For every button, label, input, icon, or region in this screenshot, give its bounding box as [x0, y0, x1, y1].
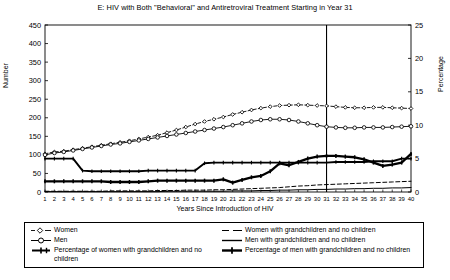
x-tick-label: 27 [286, 196, 293, 202]
series-marker-0 [353, 106, 357, 110]
series-marker-1 [165, 134, 169, 138]
legend-item-men-grandchildren[interactable]: Men with grandchildren and no children [221, 236, 421, 245]
series-marker-1 [90, 146, 94, 150]
y-tick-label-right: 25 [415, 21, 423, 30]
dashed-thin-line-icon [221, 226, 243, 235]
series-marker-1 [100, 144, 104, 148]
series-marker-1 [362, 126, 366, 130]
y-tick-label-right: 0 [415, 188, 419, 197]
series-marker-0 [390, 106, 394, 110]
series-marker-0 [334, 105, 338, 109]
series-marker-1 [193, 130, 197, 134]
x-tick-label: 28 [295, 196, 302, 202]
legend-item-men[interactable]: Men [30, 236, 220, 245]
legend-item-women-grandchildren[interactable]: Women with grandchildren and no children [221, 226, 421, 235]
series-marker-1 [118, 142, 122, 146]
x-tick-label: 37 [380, 196, 387, 202]
series-line-4 [45, 181, 411, 191]
bold-plus-icon [221, 246, 243, 255]
series-marker-1 [372, 126, 376, 130]
series-line-3 [45, 154, 411, 183]
series-marker-1 [156, 136, 160, 140]
chart-figure: E: HIV with Both "Behavioral" and Antire… [0, 0, 450, 280]
legend-item-pct-men[interactable]: Percentage of men with grandchildren and… [221, 246, 421, 255]
legend-item-women[interactable]: Women [30, 226, 220, 235]
series-marker-0 [297, 103, 301, 107]
y-tick-label-left: 300 [29, 76, 41, 85]
series-marker-1 [250, 120, 254, 124]
series-marker-1 [137, 139, 141, 143]
legend-label: Women [54, 226, 78, 234]
x-tick-label: 32 [333, 196, 340, 202]
legend-item-pct-women[interactable]: Percentage of women with grandchildren a… [30, 246, 220, 263]
x-tick-label: 36 [370, 196, 377, 202]
series-marker-0 [259, 106, 263, 110]
x-tick-label: 30 [314, 196, 321, 202]
series-marker-0 [212, 117, 216, 121]
series-marker-1 [146, 137, 150, 141]
x-tick-label: 25 [267, 196, 274, 202]
series-marker-0 [184, 125, 188, 129]
series-marker-0 [203, 120, 207, 124]
series-marker-1 [222, 125, 226, 129]
x-tick-label: 21 [229, 196, 236, 202]
x-tick-label: 10 [126, 196, 133, 202]
legend-label: Women with grandchildren and no children [245, 226, 376, 234]
series-marker-1 [259, 118, 263, 122]
series-marker-1 [81, 147, 85, 151]
series-marker-1 [53, 151, 57, 155]
series-marker-0 [240, 110, 244, 114]
series-marker-1 [409, 125, 413, 129]
series-marker-0 [372, 106, 376, 110]
x-tick-label: 8 [109, 196, 113, 202]
series-marker-0 [221, 115, 225, 119]
x-tick-label: 17 [192, 196, 199, 202]
y-tick-label-left: 350 [29, 58, 41, 67]
series-marker-1 [268, 117, 272, 121]
solid-thin-line-icon [221, 236, 243, 245]
x-tick-label: 40 [408, 196, 415, 202]
series-marker-1 [71, 149, 75, 153]
series-marker-1 [62, 150, 66, 154]
legend-label: Men with grandchildren and no children [245, 236, 365, 244]
y-tick-label-right: 15 [415, 87, 423, 96]
series-marker-0 [231, 113, 235, 117]
y-tick-label-left: 450 [29, 21, 41, 30]
series-marker-0 [287, 103, 291, 107]
series-marker-1 [231, 123, 235, 127]
series-marker-1 [297, 120, 301, 124]
series-marker-0 [175, 128, 179, 132]
series-marker-0 [343, 106, 347, 110]
legend-column-right: Women with grandchildren and no children… [221, 226, 421, 257]
legend-label: Percentage of men with grandchildren and… [245, 246, 410, 254]
legend-label: Percentage of women with grandchildren a… [54, 246, 220, 263]
series-marker-0 [306, 103, 310, 107]
series-marker-1 [212, 127, 216, 131]
x-tick-label: 38 [389, 196, 396, 202]
y-tick-label-right: 10 [415, 121, 423, 130]
series-marker-1 [344, 126, 348, 130]
series-marker-1 [334, 126, 338, 130]
series-marker-0 [409, 107, 413, 111]
x-tick-label: 13 [154, 196, 161, 202]
dashed-open-diamond-icon [30, 226, 52, 235]
x-tick-label: 29 [304, 196, 311, 202]
y-tick-label-left: 100 [29, 150, 41, 159]
x-tick-label: 19 [211, 196, 218, 202]
x-tick-label: 24 [258, 196, 265, 202]
y-tick-label-left: 200 [29, 113, 41, 122]
x-tick-label: 35 [361, 196, 368, 202]
series-marker-0 [325, 104, 329, 108]
y-tick-label-left: 0 [37, 188, 41, 197]
y-tick-label-left: 400 [29, 39, 41, 48]
x-tick-label: 16 [182, 196, 189, 202]
series-marker-0 [400, 106, 404, 110]
x-tick-label: 3 [62, 196, 66, 202]
series-marker-1 [175, 133, 179, 137]
series-marker-1 [315, 123, 319, 127]
y-tick-label-left: 50 [33, 169, 41, 178]
thick-plus-icon [30, 246, 52, 255]
series-marker-1 [381, 126, 385, 130]
x-tick-label: 18 [201, 196, 208, 202]
x-tick-label: 9 [118, 196, 121, 202]
